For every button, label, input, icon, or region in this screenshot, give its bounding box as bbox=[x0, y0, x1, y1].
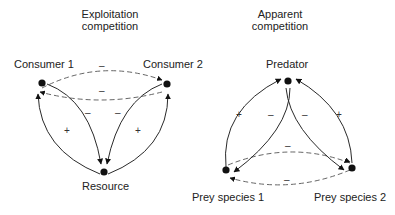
sign-inner-right: – bbox=[115, 108, 121, 118]
arrow-consumer2-to-resource bbox=[107, 84, 162, 164]
sign-outer-right: + bbox=[336, 110, 342, 120]
arrow-prey2-to-predator bbox=[296, 79, 352, 163]
arrow-prey1-to-predator bbox=[225, 79, 281, 167]
node-predator bbox=[284, 77, 291, 84]
apparent-competition-diagram bbox=[222, 77, 355, 184]
sign-inner-left: – bbox=[85, 108, 91, 118]
arrow-predator-to-prey1 bbox=[234, 88, 290, 172]
diagram-canvas: Exploitation competition Apparent compet… bbox=[0, 0, 395, 215]
title-line1: Exploitation bbox=[55, 8, 165, 20]
title-line2: competition bbox=[55, 20, 165, 32]
sign-inner-right: – bbox=[302, 110, 308, 120]
apparent-competition-title: Apparent competition bbox=[225, 8, 335, 32]
arrow-predator-to-prey2 bbox=[286, 88, 344, 170]
sign-outer-right: + bbox=[135, 126, 141, 136]
sign-outer-left: + bbox=[236, 110, 242, 120]
dashed-arc-top bbox=[228, 152, 350, 165]
exploitation-title: Exploitation competition bbox=[55, 8, 165, 32]
node-resource bbox=[100, 168, 107, 175]
sign-bottom-dashed: – bbox=[99, 86, 105, 96]
node-prey2 bbox=[348, 164, 355, 171]
arrow-consumer1-to-resource bbox=[47, 84, 101, 164]
node-consumer2 bbox=[163, 80, 170, 87]
label-consumer1: Consumer 1 bbox=[14, 58, 74, 70]
label-consumer2: Consumer 2 bbox=[143, 58, 203, 70]
sign-top-dashed: – bbox=[99, 61, 105, 71]
node-prey1 bbox=[222, 166, 229, 173]
label-resource: Resource bbox=[82, 180, 129, 192]
sign-bottom-dashed: – bbox=[284, 175, 290, 185]
diagram-graphics bbox=[0, 0, 395, 215]
title-line2: competition bbox=[225, 20, 335, 32]
label-prey1: Prey species 1 bbox=[192, 191, 264, 203]
sign-outer-left: + bbox=[64, 126, 70, 136]
node-consumer1 bbox=[38, 79, 45, 86]
title-line1: Apparent bbox=[225, 8, 335, 20]
sign-top-dashed: – bbox=[285, 141, 291, 151]
label-predator: Predator bbox=[266, 58, 308, 70]
dashed-arc-bottom bbox=[230, 170, 350, 185]
label-prey2: Prey species 2 bbox=[314, 191, 386, 203]
sign-inner-left: – bbox=[268, 110, 274, 120]
